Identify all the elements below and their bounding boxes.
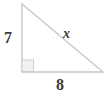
side-label-horizontal-leg: 8 xyxy=(56,77,64,93)
right-angle-marker xyxy=(22,60,34,72)
side-label-vertical-leg: 7 xyxy=(4,30,12,46)
triangle-figure: 7 x 8 xyxy=(0,0,111,101)
side-label-hypotenuse: x xyxy=(63,27,70,41)
